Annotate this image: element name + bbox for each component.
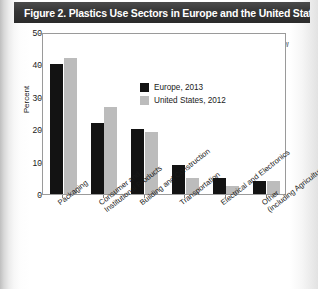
y-axis-ticks: 01020304050 [18, 33, 42, 195]
x-axis-labels: PackagingConsumer andInstitutional Produ… [0, 195, 318, 289]
bar-united-states [104, 107, 117, 194]
legend-label: Europe, 2013 [154, 83, 203, 92]
bar-group [50, 34, 77, 194]
legend-item: United States, 2012 [140, 95, 226, 105]
bar-united-states [64, 58, 77, 194]
legend-swatch-united-states [140, 96, 149, 105]
figure-container: Figure 2. Plastics Use Sectors in Europe… [0, 0, 318, 289]
legend-swatch-europe [140, 83, 149, 92]
figure-title: Figure 2. Plastics Use Sectors in Europe… [14, 7, 310, 19]
plot-frame [42, 33, 286, 195]
bar-europe [50, 64, 63, 194]
bar-group [91, 34, 118, 194]
legend-item: Europe, 2013 [140, 82, 226, 92]
chart-legend: Europe, 2013United States, 2012 [140, 82, 226, 108]
figure-title-band: Figure 2. Plastics Use Sectors in Europe… [14, 2, 310, 23]
bar-europe [91, 123, 104, 194]
legend-label: United States, 2012 [154, 96, 226, 105]
